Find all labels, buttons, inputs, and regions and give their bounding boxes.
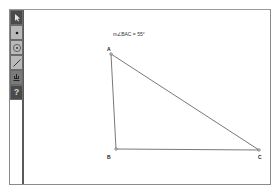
point-c-label[interactable]: C [258,154,262,160]
custom-tool-icon [12,73,21,82]
point-b [115,148,117,150]
arrow-icon [13,13,21,22]
circle-icon [12,43,22,53]
information-tool[interactable]: ? [10,85,23,100]
toolbox: ? [10,10,24,184]
question-icon: ? [14,88,20,97]
custom-tool[interactable] [10,70,23,85]
angle-measurement[interactable]: m∠BAC = 55° [113,31,145,37]
segment-bc [116,149,259,150]
point-tool[interactable] [10,25,23,40]
triangle-figure [25,10,272,186]
point-b-label[interactable]: B [107,154,111,160]
drawing-canvas[interactable]: m∠BAC = 55° A B C [25,10,270,184]
segment-ab [111,54,116,149]
point-a-label[interactable]: A [107,46,111,52]
segment-icon [12,58,22,68]
straightedge-tool[interactable] [10,55,23,70]
point-c [258,149,260,151]
sketch-window: ? m∠BAC = 55° A B C [9,9,271,185]
selection-arrow-tool[interactable] [10,10,23,25]
segment-ac [111,54,259,150]
compass-tool[interactable] [10,40,23,55]
point-a [110,53,112,55]
point-icon [13,29,21,37]
